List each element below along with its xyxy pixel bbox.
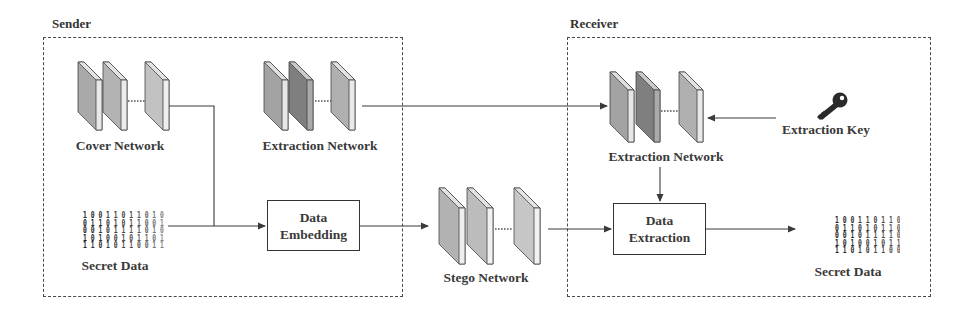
receiver-secret-data-label: Secret Data: [815, 264, 882, 280]
binary-pattern-icon: 1 0 0 1 1 0 1 1 0 1 0 1 1 0 0 1 1 0 1 0 …: [835, 216, 900, 255]
cover-network-label: Cover Network: [76, 138, 165, 154]
secret-data-bits-icon: 1 0 0 1 1 0 1 1 0 1 0 1 1 0 0 1 1 0 1 0 …: [64, 203, 168, 249]
binary-pattern-icon: 1 0 0 1 1 0 1 1 0 1 0 1 1 0 0 1 1 0 1 0 …: [83, 211, 168, 250]
svg-text:1 0 0 1 0 1 0 1 1 1 0 1 1 0: 1 0 0 1 0 1 0 1 1 1 0 1 1 0: [83, 248, 168, 249]
stego-network-layers: [437, 186, 547, 266]
stego-network-label: Stego Network: [443, 270, 528, 286]
diagram-canvas: Sender Receiver: [0, 0, 972, 315]
extraction-key-label: Extraction Key: [782, 122, 870, 138]
receiver-secret-data-bits-icon: 1 0 0 1 1 0 1 1 0 1 0 1 1 0 0 1 1 0 1 0 …: [796, 208, 900, 254]
data-embedding-box: Data Embedding: [267, 200, 360, 251]
key-icon: [814, 92, 850, 122]
sender-extraction-network-label: Extraction Network: [262, 138, 377, 154]
data-embedding-line1: Data: [300, 209, 328, 226]
svg-text:1 0 0 1 0 1 0 1 1 1 0 1 1 0: 1 0 0 1 0 1 0 1 1 1 0 1 1 0: [835, 253, 900, 254]
receiver-extraction-network-layers: [608, 70, 708, 145]
data-embedding-line2: Embedding: [280, 226, 347, 243]
data-extraction-line1: Data: [646, 212, 674, 229]
receiver-extraction-network-label: Extraction Network: [608, 149, 723, 165]
sender-secret-data-label: Secret Data: [82, 258, 149, 274]
sender-extraction-network-layers: [262, 60, 362, 135]
cover-network-layers: [76, 60, 176, 135]
data-extraction-line2: Extraction: [629, 229, 691, 246]
data-extraction-box: Data Extraction: [613, 203, 706, 255]
